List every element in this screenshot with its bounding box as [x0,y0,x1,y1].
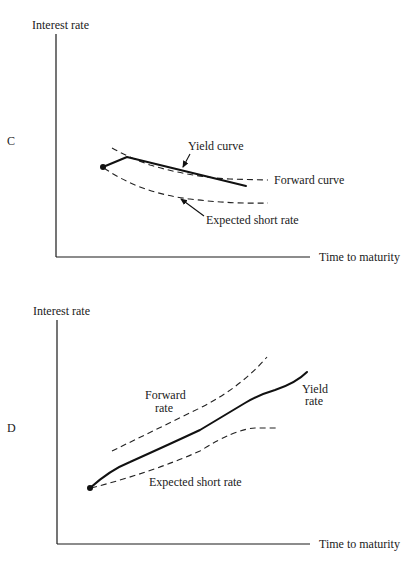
yield-curve [103,157,246,186]
panel-d: Interest rate Time to maturity D Forward… [7,304,400,551]
start-point [100,164,106,170]
x-axis-label: Time to maturity [319,250,400,264]
x-axis-label: Time to maturity [319,537,400,551]
panel-label: C [7,134,15,148]
forward-rate-label-line2: rate [155,401,173,415]
yield-curve-label: Yield curve [188,139,244,153]
yield-rate-label-line2: rate [305,394,323,408]
term-structure-diagrams: Interest rate Time to maturity C Yield c… [0,0,412,566]
yield-curve-arrow [183,154,190,167]
expected-short-rate-arrow [181,199,204,216]
start-point [87,485,93,491]
expected-short-rate-label: Expected short rate [149,475,242,489]
panel-c: Interest rate Time to maturity C Yield c… [7,18,400,264]
y-axis-label: Interest rate [33,304,90,318]
forward-rate-label-line1: Forward [145,388,186,402]
yield-rate-curve [90,372,307,488]
expected-short-rate-label: Expected short rate [206,213,299,227]
panel-label: D [7,421,16,435]
forward-curve-label: Forward curve [274,173,344,187]
y-axis-label: Interest rate [32,18,89,32]
